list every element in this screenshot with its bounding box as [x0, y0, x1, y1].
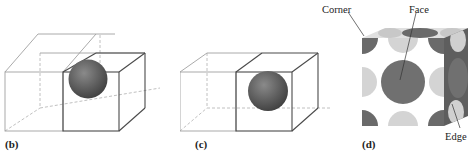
corner-callout: Corner: [322, 4, 351, 15]
unit-cells-diagram-c: [180, 0, 330, 156]
panel-c: (c): [180, 0, 330, 156]
atom-sphere: [69, 60, 108, 99]
panel-label-d: (d): [362, 138, 375, 150]
corner-leader-line: [348, 12, 364, 36]
atom-sphere: [248, 71, 288, 111]
unit-cells-diagram-b: [0, 0, 160, 156]
panel-d: Corner Face Edge (d): [340, 0, 468, 156]
face-callout: Face: [409, 4, 429, 15]
edge-callout: Edge: [445, 131, 467, 142]
panel-label-c: (c): [195, 138, 207, 150]
panel-b: (b): [0, 0, 160, 156]
panel-label-b: (b): [5, 138, 18, 150]
